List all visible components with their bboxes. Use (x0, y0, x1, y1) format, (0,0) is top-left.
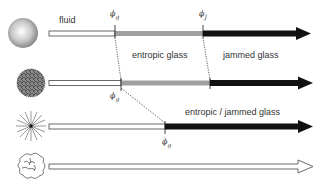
entropic-jammed-glass-bar (165, 124, 300, 130)
fluid-bar (49, 31, 115, 36)
subscript-g: g (115, 95, 119, 102)
subscript-g: g (115, 13, 119, 20)
phi-g-label-row1: ϕg (110, 9, 119, 20)
arrowhead (296, 27, 311, 40)
phi-g-label-row2: ϕg (110, 91, 119, 102)
label-entropic-glass: entropic glass (132, 50, 188, 60)
entropic-glass-bar (115, 31, 203, 36)
arrowhead (298, 120, 313, 133)
fluid-hollow-arrow (49, 160, 313, 173)
phi-j-connector (203, 38, 210, 80)
arrowhead (298, 77, 313, 90)
microgel-icon (18, 153, 45, 178)
label-fluid: fluid (59, 15, 76, 25)
label-entropic-jammed-glass: entropic / jammed glass (185, 107, 280, 117)
phase-diagram (0, 0, 330, 186)
fluid-bar (49, 81, 121, 86)
row-microgel (18, 153, 313, 178)
jammed-glass-bar (203, 31, 298, 37)
phi-j-label-row1: ϕJ (199, 9, 207, 20)
label-jammed-glass: jammed glass (223, 50, 279, 60)
phi-g-label-row3: ϕg (162, 137, 171, 148)
row-fuzzy-sphere (17, 69, 313, 97)
subscript-g: g (167, 141, 171, 148)
phi-g-connector-2 (121, 88, 165, 123)
jammed-glass-bar (210, 80, 300, 86)
subscript-j: J (204, 13, 206, 20)
row-hard-sphere (8, 18, 311, 48)
hard-sphere-icon (8, 18, 38, 48)
phi-g-connector (115, 38, 121, 80)
star-polymer-icon (16, 111, 46, 141)
entropic-glass-bar (121, 81, 210, 86)
fluid-bar (49, 124, 165, 129)
